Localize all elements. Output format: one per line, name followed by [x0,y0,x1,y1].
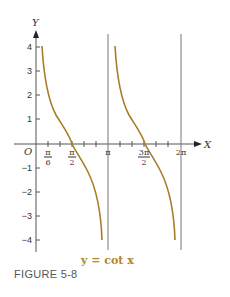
cot-branch-2 [115,46,175,240]
svg-text:π: π [69,148,74,157]
svg-text:−2: −2 [22,187,32,197]
svg-text:−4: −4 [22,235,32,245]
cot-graph: Y X O 4321 −1−2−3−4 π6 π2 π 3π2 2π [0,0,230,297]
svg-text:1: 1 [27,114,32,124]
svg-text:−1: −1 [22,163,32,173]
x-axis-arrow-icon [194,141,202,147]
figure-caption: FIGURE 5-8 [14,268,78,280]
svg-text:3π: 3π [139,148,149,157]
svg-text:2: 2 [27,90,32,100]
axis-labels: Y X O 4321 −1−2−3−4 π6 π2 π 3π2 2π [22,17,212,245]
origin-label: O [24,146,32,157]
cot-branch-1 [42,46,102,240]
svg-text:2π: 2π [176,148,186,157]
figure: Y X O 4321 −1−2−3−4 π6 π2 π 3π2 2π y = c… [0,0,230,297]
x-axis-label: X [203,139,212,150]
svg-text:6: 6 [45,158,50,167]
y-axis-label: Y [32,17,40,28]
svg-text:π: π [45,148,50,157]
svg-text:2: 2 [69,158,74,167]
svg-text:π: π [105,148,110,157]
svg-text:4: 4 [27,42,32,52]
svg-text:−3: −3 [22,211,32,221]
svg-text:3: 3 [27,66,32,76]
svg-text:2: 2 [141,158,146,167]
y-axis-arrow-icon [33,30,39,38]
equation-label: y = cot x [81,254,134,267]
